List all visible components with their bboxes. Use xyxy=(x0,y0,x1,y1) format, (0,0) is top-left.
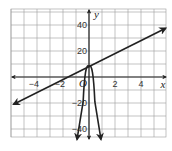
y-tick-label: 20 xyxy=(77,46,87,56)
x-tick-label: 4 xyxy=(138,79,143,89)
x-tick-label: −4 xyxy=(29,79,39,89)
axes xyxy=(12,10,166,139)
x-axis-label: x xyxy=(160,78,166,90)
y-axis-label: y xyxy=(93,8,99,20)
y-tick-label: −20 xyxy=(72,98,87,108)
y-tick-label: 40 xyxy=(77,20,87,30)
coordinate-graph: −4−2O244020−20−40xy xyxy=(0,0,172,151)
x-tick-label: 2 xyxy=(112,79,117,89)
origin-label: O xyxy=(79,77,87,89)
